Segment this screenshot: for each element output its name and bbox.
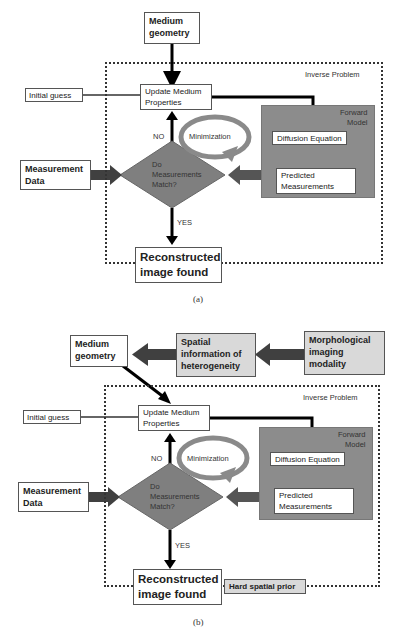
morphological-line3: modality [309,358,380,370]
update-medium-box-b: Update Medium Properties [138,405,210,431]
medium-geometry-box-b: Medium geometry [70,335,128,367]
caption-b: (b) [193,617,204,627]
initial-guess-box-b: Initial guess [23,410,81,424]
medium-geometry-b-line2: geometry [75,350,123,362]
forward-model-label-b: Forward Model [338,430,366,450]
predicted-b-line2: Measurements [279,501,349,512]
no-label-b: NO [151,454,162,463]
decision-b-line1: Do [150,482,200,492]
reconstructed-b-line2: image found [138,587,217,602]
decision-b-line2: Measurements [150,492,200,502]
measurement-data-b-line1: Measurement [23,485,84,497]
update-medium-b-line2: Properties [143,418,205,429]
yes-label-b: YES [175,541,190,550]
decision-text-b: Do Measurements Match? [150,482,200,512]
morphological-imaging-box: Morphological imaging modality [304,331,385,375]
measurement-data-b-line2: Data [23,497,84,509]
morphological-line2: imaging [309,346,380,358]
forward-model-b-line1: Forward [338,430,366,440]
spatial-information-box: Spatial information of heterogeneity [176,333,256,377]
spatial-info-line1: Spatial [181,336,251,348]
update-medium-b-line1: Update Medium [143,407,205,418]
predicted-measurements-box-b: Predicted Measurements [274,488,354,514]
diffusion-equation-box-b: Diffusion Equation [270,452,345,466]
morphological-line1: Morphological [309,334,380,346]
measurement-data-box-b: Measurement Data [18,482,89,512]
decision-b-line3: Match? [150,502,200,512]
spatial-info-line2: information of [181,348,251,360]
predicted-b-line1: Predicted [279,490,349,501]
forward-model-b-line2: Model [338,440,366,450]
medium-geometry-b-line1: Medium [75,338,123,350]
reconstructed-image-box-b: Reconstructed image found [133,569,222,605]
hard-spatial-prior-box: Hard spatial prior [224,579,306,594]
inverse-problem-label-b: Inverse Problem [303,393,358,402]
spatial-info-line3: heterogeneity [181,360,251,372]
reconstructed-b-line1: Reconstructed [138,572,217,587]
minimization-label-b: Minimization [187,454,229,463]
